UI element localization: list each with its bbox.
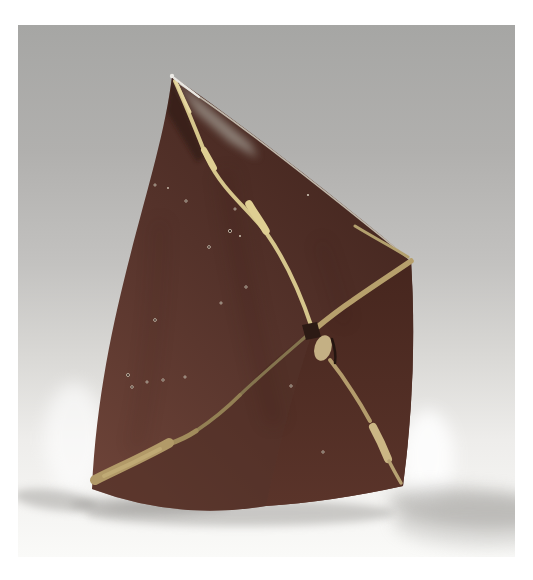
- sculpture-photo: [18, 25, 515, 557]
- page: [0, 0, 533, 580]
- apex-tip-highlight: [170, 74, 174, 78]
